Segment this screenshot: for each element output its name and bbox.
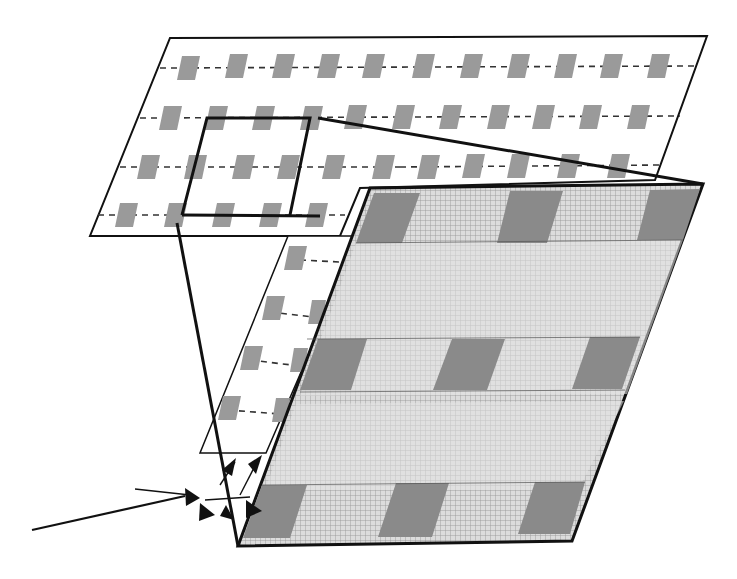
arrow-icon (199, 503, 215, 521)
incoming-beam-line-1 (32, 496, 185, 530)
incoming-beam-line-2 (135, 489, 190, 495)
arrow-icon (185, 488, 200, 506)
exploded-layer-diagram (0, 0, 737, 579)
mapped-region-outline-top-2 (182, 215, 320, 216)
